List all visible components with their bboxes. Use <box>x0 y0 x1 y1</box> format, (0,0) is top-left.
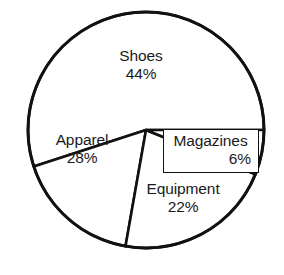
pie-label-shoes-name: Shoes <box>96 47 186 65</box>
pie-label-equipment: Equipment 22% <box>128 180 238 217</box>
pie-label-apparel-name: Apparel <box>34 131 130 149</box>
pie-label-apparel-value: 28% <box>34 149 130 167</box>
pie-label-shoes-value: 44% <box>96 65 186 83</box>
pie-label-magazines: Magazines 6% <box>163 129 259 173</box>
pie-label-apparel: Apparel 28% <box>34 131 130 168</box>
pie-label-shoes: Shoes 44% <box>96 47 186 84</box>
pie-label-magazines-name: Magazines <box>165 132 257 150</box>
pie-chart: Shoes 44% Apparel 28% Equipment 22% Maga… <box>0 0 284 275</box>
pie-label-magazines-value: 6% <box>165 150 257 168</box>
pie-label-equipment-value: 22% <box>128 198 238 216</box>
pie-label-equipment-name: Equipment <box>128 180 238 198</box>
